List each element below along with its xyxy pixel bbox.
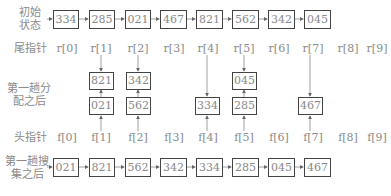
tail-pointer-1: r[1] [91,42,112,55]
bucket-5-head-node: 285 [232,97,257,115]
initial-state-label: 初始 状态 [14,6,46,32]
distribution-label-line2: 配之后 [6,95,52,108]
head-pointer-5: f[5] [234,131,254,144]
bucket-2-tail-node: 342 [126,72,151,90]
bucket-7-head-node: 467 [298,97,323,115]
tail-pointer-3: r[3] [164,42,185,55]
collect-node-2: 562 [125,158,151,177]
collect-node-0: 021 [53,158,79,177]
head-pointer-9: f[9] [367,131,387,144]
collect-node-7: 467 [304,158,331,177]
distribution-label: 第一趟分 配之后 [6,82,52,108]
bucket-2-head-node: 562 [126,97,151,115]
head-pointer-8: f[8] [338,131,358,144]
bucket-5-tail-node: 045 [232,72,257,90]
tail-pointer-0: r[0] [57,42,78,55]
after-collect-label: 第一趟搜 集之后 [4,155,50,181]
head-pointer-4: f[4] [198,131,218,144]
initial-node-0: 334 [53,10,79,29]
after-collect-label-line1: 第一趟搜 [4,155,50,168]
tail-pointer-2: r[2] [128,42,149,55]
tail-pointer-8: r[8] [338,42,359,55]
tail-pointer-9: r[9] [367,42,388,55]
initial-node-2: 021 [125,10,151,29]
tail-pointer-6: r[6] [269,42,290,55]
after-collect-label-line2: 集之后 [4,168,50,181]
bucket-4-head-node: 334 [195,97,220,115]
head-pointer-6: f[6] [269,131,289,144]
tail-pointer-5: r[5] [234,42,255,55]
initial-node-6: 342 [268,10,295,29]
distribution-label-line1: 第一趟分 [6,82,52,95]
bucket-1-tail-node: 821 [89,72,114,90]
bucket-1-head-node: 021 [89,97,114,115]
tail-pointer-7: r[7] [303,42,324,55]
head-pointer-2: f[2] [128,131,148,144]
head-pointer-7: f[7] [303,131,323,144]
initial-node-7: 045 [304,10,331,29]
collect-node-3: 342 [160,158,187,177]
head-pointer-3: f[3] [164,131,184,144]
collect-node-6: 045 [268,158,295,177]
initial-node-1: 285 [89,10,115,29]
head-pointer-label: 头指针 [14,131,47,144]
initial-node-5: 562 [232,10,259,29]
collect-node-5: 285 [232,158,259,177]
tail-pointer-4: r[4] [198,42,219,55]
initial-node-4: 821 [196,10,223,29]
collect-node-1: 821 [89,158,115,177]
initial-state-label-line1: 初始 [14,6,46,19]
tail-pointer-label: 尾指针 [14,42,47,55]
initial-node-3: 467 [160,10,187,29]
initial-state-label-line2: 状态 [14,19,46,32]
head-pointer-1: f[1] [91,131,111,144]
head-pointer-0: f[0] [57,131,77,144]
collect-node-4: 334 [196,158,223,177]
